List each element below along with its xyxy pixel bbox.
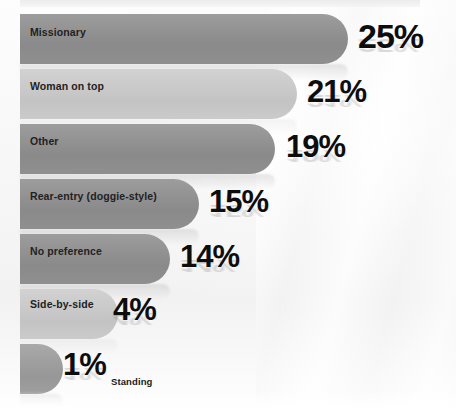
bar-value-label: 4% [113, 294, 156, 325]
bar-5[interactable] [20, 234, 170, 284]
bar-value-label: 14% [180, 241, 239, 272]
bar-category-label: Standing [111, 377, 152, 387]
bar-category-label: Missionary [30, 27, 86, 38]
bar-value-label: 15% [209, 186, 268, 217]
bar-4[interactable] [20, 179, 199, 229]
bar-value-label: 19% [286, 131, 345, 162]
bar-category-label: Rear-entry (doggie-style) [30, 191, 157, 202]
horizontal-bar-chart: Missionary25%25%Woman on top21%21%Other1… [0, 0, 456, 417]
bar-7[interactable] [20, 344, 63, 394]
bar-1[interactable] [20, 14, 348, 64]
bar-category-label: Side-by-side [30, 299, 94, 310]
bar-value-label: 1% [63, 349, 106, 380]
bar-6[interactable] [20, 289, 118, 339]
bar-2[interactable] [20, 69, 297, 119]
bar-3[interactable] [20, 124, 275, 174]
bar-value-label: 21% [307, 76, 366, 107]
bar-value-label: 25% [358, 19, 423, 53]
bar-category-label: No preference [30, 246, 102, 257]
bar-reflection [20, 394, 63, 410]
bar-category-label: Woman on top [30, 81, 104, 92]
bar-rows-container: Missionary25%25%Woman on top21%21%Other1… [0, 0, 456, 417]
bar-category-label: Other [30, 136, 59, 147]
